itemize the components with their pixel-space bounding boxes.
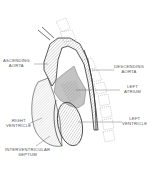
- label-ascending-aorta: ASCENDING AORTA: [3, 59, 30, 68]
- label-right-ventricle: RIGHT VENTRICLE: [6, 119, 31, 128]
- great-vessels: [38, 27, 54, 40]
- label-left-atrium: LEFT ATRIUM: [124, 85, 141, 94]
- label-interventricular-septum: INTERVENTRICULAR SEPTUM: [5, 148, 50, 157]
- label-descending-aorta: DESCENDING AORTA: [114, 65, 144, 74]
- label-left-ventricle: LEFT VENTRICLE: [122, 117, 147, 126]
